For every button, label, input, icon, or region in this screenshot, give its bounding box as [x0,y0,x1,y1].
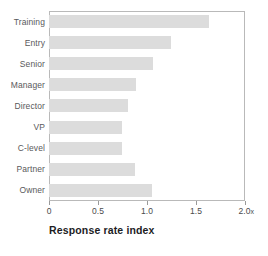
x-axis-title: Response rate index [49,224,155,236]
y-tick-label: Director [14,101,45,111]
bar [49,184,152,197]
x-tick-label: 0 [47,206,52,216]
x-axis-tick-mark [196,201,197,205]
y-tick-label: VP [33,122,45,132]
x-axis-tick-mark [147,201,148,205]
bar [49,36,171,49]
x-axis-tick-labels: 00.51.01.52.0x [0,206,268,220]
x-axis-tick-mark [49,201,50,205]
y-tick-label-row: Entry [0,32,45,53]
y-tick-label-row: Manager [0,74,45,95]
y-tick-label-row: Owner [0,180,45,201]
bar [49,57,153,70]
bar-chart: Training Entry Senior Manager Director V… [0,0,268,256]
x-tick-label: 0.5 [92,206,104,216]
bar-row [49,138,245,159]
y-tick-label: Manager [11,80,45,90]
y-tick-label: C-level [18,143,45,153]
y-tick-label: Training [14,17,45,27]
bar [49,121,122,134]
bar-row [49,74,245,95]
y-tick-label: Senior [20,59,45,69]
bar-row [49,32,245,53]
y-tick-label-row: VP [0,117,45,138]
y-tick-label: Owner [19,185,45,195]
bar [49,99,128,112]
bar [49,78,136,91]
bar [49,163,135,176]
y-tick-label: Entry [25,38,45,48]
y-axis-category-labels: Training Entry Senior Manager Director V… [0,11,45,201]
x-axis-tick-mark [245,201,246,205]
bar [49,142,122,155]
bar-row [49,95,245,116]
bar-series [49,11,245,201]
y-tick-label-row: C-level [0,138,45,159]
y-tick-label-row: Director [0,95,45,116]
y-tick-label: Partner [16,164,45,174]
y-tick-label-row: Training [0,11,45,32]
bar-row [49,159,245,180]
bar [49,15,209,28]
bar-row [49,53,245,74]
bar-row [49,11,245,32]
bar-row [49,180,245,201]
x-tick-label: 1.5 [190,206,202,216]
x-axis-unit-suffix: x [250,208,254,215]
y-tick-label-row: Partner [0,159,45,180]
x-tick-label: 2.0x [239,206,254,216]
bar-row [49,117,245,138]
x-tick-label: 1.0 [141,206,153,216]
x-axis-tick-mark [98,201,99,205]
y-tick-label-row: Senior [0,53,45,74]
